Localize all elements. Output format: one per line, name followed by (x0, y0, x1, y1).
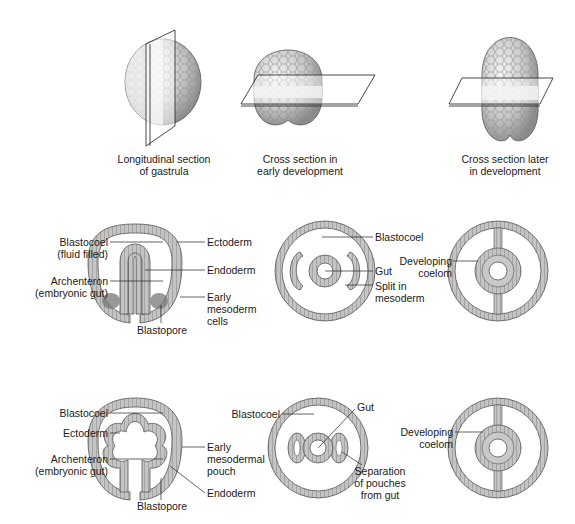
caption-line: early development (245, 165, 355, 177)
label-blastocoel: Blastocoel (30, 407, 108, 419)
label-ectoderm: Ectoderm (30, 427, 108, 439)
label-line: (fluid filled) (30, 248, 108, 260)
label-line: (embryonic gut) (20, 287, 108, 299)
schizo-cross-later (448, 221, 548, 321)
label-line: Archenteron (20, 275, 108, 287)
caption-line: Cross section in (245, 153, 355, 165)
entero-cross-later (448, 398, 548, 498)
section-plane-horizontal (449, 78, 553, 104)
label-early-mesoderm: Early mesoderm cells (207, 291, 257, 327)
gastrula-longitudinal-view (125, 30, 201, 146)
label-line: Archenteron (20, 453, 108, 465)
label-line: (embryonic gut) (20, 465, 108, 477)
caption-later-cross: Cross section later in development (450, 153, 560, 177)
gastrula-early-cross-view (241, 50, 375, 125)
caption-early-cross: Cross section in early development (245, 153, 355, 177)
label-line: from gut (340, 489, 420, 501)
label-blastopore: Blastopore (137, 324, 187, 336)
label-blastocoel: Blastocoel (fluid filled) (30, 236, 108, 260)
label-split-mesoderm: Split in mesoderm (375, 280, 425, 304)
label-line: Early (207, 441, 265, 453)
diagram-canvas (0, 0, 575, 524)
caption-longitudinal: Longitudinal section of gastrula (108, 153, 220, 177)
label-line: cells (207, 315, 257, 327)
label-line: coelom (393, 438, 453, 450)
label-line: mesoderm (207, 303, 257, 315)
caption-line: Cross section later (450, 153, 560, 165)
label-line: Split in (375, 280, 425, 292)
label-endoderm: Endoderm (207, 264, 255, 276)
label-developing-coelom: Developing coelom (393, 426, 453, 450)
label-line: Separation (340, 465, 420, 477)
label-gut: Gut (357, 401, 374, 413)
label-cross-blastocoel: Blastocoel (375, 231, 423, 243)
label-line: mesodermal (207, 453, 265, 465)
label-cross-blastocoel: Blastocoel (220, 408, 280, 420)
caption-line: Longitudinal section (108, 153, 220, 165)
label-line: Developing (390, 255, 452, 267)
label-archenteron: Archenteron (embryonic gut) (20, 275, 108, 299)
caption-line: in development (450, 165, 560, 177)
label-blastopore: Blastopore (137, 500, 187, 512)
label-developing-coelom: Developing coelom (390, 255, 452, 279)
gastrula-later-cross-view (449, 38, 553, 141)
label-endoderm: Endoderm (207, 487, 255, 499)
label-line: Early (207, 291, 257, 303)
label-line: coelom (390, 267, 452, 279)
label-archenteron: Archenteron (embryonic gut) (20, 453, 108, 477)
label-line: of pouches (340, 477, 420, 489)
caption-line: of gastrula (108, 165, 220, 177)
label-line: mesoderm (375, 292, 425, 304)
label-line: Blastocoel (30, 236, 108, 248)
label-line: Developing (393, 426, 453, 438)
label-ectoderm: Ectoderm (207, 236, 252, 248)
label-line: pouch (207, 465, 265, 477)
label-separation-pouches: Separation of pouches from gut (340, 465, 420, 501)
label-mesodermal-pouch: Early mesodermal pouch (207, 441, 265, 477)
section-plane-horizontal (241, 75, 375, 104)
